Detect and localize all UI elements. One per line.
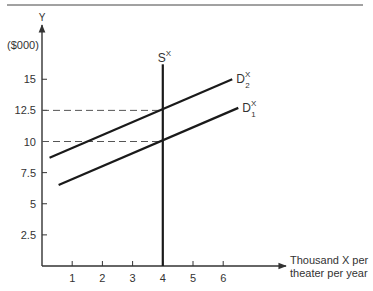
y-tick-label: 15: [24, 73, 36, 85]
x-tick-label: 6: [220, 272, 226, 284]
y-axis-title: Y: [39, 12, 46, 23]
x-tick-label: 5: [190, 272, 196, 284]
chart: 2.557.51012.515123456Y($000)Thousand X p…: [0, 0, 373, 291]
x-tick-label: 4: [160, 272, 166, 284]
y-tick-label: 2.5: [21, 229, 36, 241]
y-tick-label: 12.5: [15, 104, 36, 116]
supply-label: SX: [158, 49, 172, 65]
demand-curve-1: [59, 108, 239, 185]
x-tick-label: 2: [99, 272, 105, 284]
y-axis-unit: ($000): [7, 39, 39, 51]
demand-label-1: DX1: [242, 99, 257, 119]
y-tick-label: 10: [24, 136, 36, 148]
x-axis-title: Thousand X per: [290, 254, 369, 266]
demand-label-2: DX2: [236, 70, 251, 90]
x-tick-label: 1: [69, 272, 75, 284]
dashed-guides: [42, 110, 163, 141]
x-tick-label: 3: [130, 272, 136, 284]
curves: [50, 64, 239, 266]
demand-curve-2: [50, 79, 233, 157]
x-axis-title: theater per year: [290, 267, 368, 279]
y-tick-label: 7.5: [21, 167, 36, 179]
y-tick-label: 5: [30, 198, 36, 210]
labels: 2.557.51012.515123456Y($000)Thousand X p…: [7, 12, 369, 284]
